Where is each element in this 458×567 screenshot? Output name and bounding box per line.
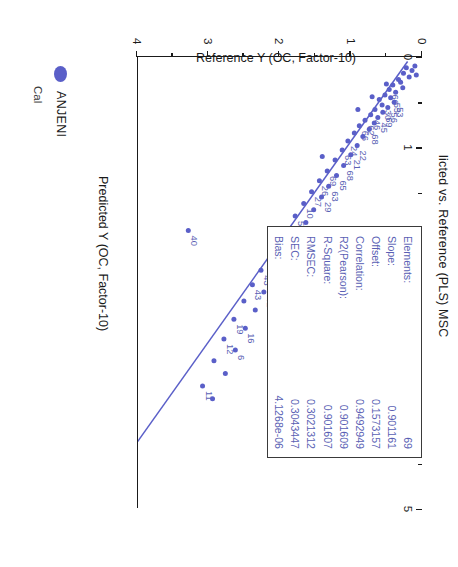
data-point[interactable] [387, 87, 392, 92]
stat-key: R2(Pearson): [336, 236, 352, 299]
data-point[interactable] [241, 299, 246, 304]
data-point[interactable] [357, 123, 362, 128]
data-point[interactable] [186, 228, 191, 233]
data-point[interactable] [258, 268, 263, 273]
data-point[interactable] [233, 347, 238, 352]
y-tick-label: 1 [345, 38, 357, 44]
legend-sub-label: Cal [32, 86, 44, 103]
x-tick-label: 1 [402, 144, 414, 150]
stat-value: 0.901607 [319, 405, 335, 449]
data-point-label: 6 [236, 355, 246, 360]
data-point[interactable] [375, 115, 380, 120]
data-point[interactable] [223, 371, 228, 376]
data-point[interactable] [368, 112, 373, 117]
data-point[interactable] [352, 130, 357, 135]
x-tick-mark-minor [418, 193, 422, 194]
data-point[interactable] [253, 308, 258, 313]
data-point[interactable] [372, 120, 377, 125]
data-point[interactable] [293, 214, 298, 219]
stat-value: 69 [400, 437, 416, 449]
data-point[interactable] [303, 220, 308, 225]
data-point[interactable] [200, 384, 205, 389]
data-point[interactable] [380, 102, 385, 107]
data-point[interactable] [382, 92, 387, 97]
data-point[interactable] [341, 163, 346, 168]
data-point-label: 45 [379, 123, 389, 133]
data-point[interactable] [407, 74, 412, 79]
x-tick-mark-minor [418, 464, 422, 465]
stat-row: SEC:0.3043447 [287, 236, 303, 449]
data-point[interactable] [355, 107, 360, 112]
stat-key: Slope: [384, 236, 400, 266]
data-point[interactable] [301, 201, 306, 206]
stat-key: RMSEC: [303, 236, 319, 277]
stat-value: 0.3043447 [287, 399, 303, 449]
data-point[interactable] [385, 105, 390, 110]
data-point[interactable] [401, 71, 406, 76]
x-tick-mark-minor [418, 102, 422, 103]
rotated-figure-container: licted vs. Reference (PLS) MSC 605553305… [0, 0, 458, 567]
data-point[interactable] [250, 282, 255, 287]
data-point[interactable] [309, 189, 314, 194]
data-point[interactable] [380, 110, 385, 115]
legend: ANJENI [54, 66, 68, 137]
stat-row: R-Square:0.901607 [319, 236, 335, 449]
legend-marker-icon [55, 66, 68, 82]
data-point[interactable] [384, 82, 389, 87]
data-point[interactable] [400, 85, 405, 90]
data-point[interactable] [243, 326, 248, 331]
stat-row: R2(Pearson):0.901609 [336, 236, 352, 449]
data-point[interactable] [370, 94, 375, 99]
stat-key: Bias: [271, 236, 287, 260]
data-point[interactable] [334, 173, 339, 178]
data-point-label: 63 [330, 191, 340, 201]
data-point[interactable] [211, 358, 216, 363]
data-point[interactable] [348, 152, 353, 157]
data-point[interactable] [325, 168, 330, 173]
data-point[interactable] [392, 100, 397, 105]
data-point[interactable] [319, 195, 324, 200]
data-point[interactable] [340, 148, 345, 153]
data-point[interactable] [377, 97, 382, 102]
y-tick-mark [421, 51, 422, 57]
stat-row: Elements:69 [400, 236, 416, 449]
data-point[interactable] [410, 68, 415, 73]
data-point[interactable] [210, 396, 215, 401]
data-point[interactable] [311, 207, 316, 212]
data-point[interactable] [412, 64, 417, 69]
data-point[interactable] [372, 107, 377, 112]
data-point[interactable] [398, 80, 403, 85]
stat-value: 0.901161 [384, 406, 400, 449]
data-point[interactable] [414, 73, 419, 78]
data-point-label: 68 [370, 134, 380, 144]
data-point-label: 29 [323, 202, 333, 212]
data-point[interactable] [326, 184, 331, 189]
data-point[interactable] [333, 158, 338, 163]
data-point[interactable] [355, 143, 360, 148]
data-point[interactable] [393, 90, 398, 95]
data-point[interactable] [231, 317, 236, 322]
data-point[interactable] [320, 154, 325, 159]
data-point[interactable] [367, 127, 372, 132]
data-point[interactable] [221, 337, 226, 342]
data-point[interactable] [317, 178, 322, 183]
stat-value: 4.1268e-06 [271, 395, 287, 449]
stat-row: Slope:0.901161 [384, 236, 400, 449]
stat-row: RMSEC:0.3021312 [303, 236, 319, 449]
data-point[interactable] [345, 139, 350, 144]
data-point[interactable] [404, 65, 409, 70]
data-point[interactable] [261, 290, 266, 295]
data-point[interactable] [363, 118, 368, 123]
y-tick-mark [136, 51, 137, 57]
data-point-label: 21 [352, 160, 362, 170]
data-point-label: 40 [189, 236, 199, 246]
stat-key: SEC: [287, 236, 303, 261]
data-point[interactable] [388, 95, 393, 100]
y-tick-label: 2 [274, 38, 286, 44]
stat-value: 0.901609 [336, 405, 352, 449]
data-point[interactable] [390, 83, 395, 88]
data-point[interactable] [360, 134, 365, 139]
x-tick-mark [416, 147, 422, 148]
stat-value: 0.9492949 [352, 399, 368, 449]
data-point-label: 65 [338, 180, 348, 190]
